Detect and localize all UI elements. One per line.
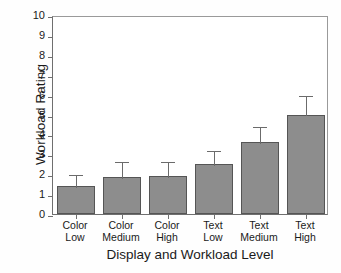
x-category-label: TextHigh xyxy=(265,219,341,243)
x-category-line: Text xyxy=(265,219,341,231)
y-tick-label: 8 xyxy=(39,50,45,61)
error-bar xyxy=(214,151,215,166)
bar xyxy=(149,176,187,214)
bar xyxy=(195,164,233,214)
bar xyxy=(57,186,95,214)
y-tick-6: 6 xyxy=(48,97,53,98)
y-tick-label: 5 xyxy=(39,110,45,121)
error-bar-cap xyxy=(207,151,221,152)
error-bar-cap xyxy=(299,96,313,97)
x-category-line: High xyxy=(265,231,341,243)
error-bar-cap xyxy=(69,175,83,176)
error-bar xyxy=(76,175,77,188)
bar xyxy=(241,142,279,214)
error-bar-cap xyxy=(253,127,267,128)
error-bar xyxy=(168,162,169,178)
y-tick-5: 5 xyxy=(48,117,53,118)
y-tick-2: 2 xyxy=(48,176,53,177)
error-bar-cap xyxy=(115,162,129,163)
error-bar xyxy=(122,162,123,179)
y-tick-3: 3 xyxy=(48,156,53,157)
x-axis-title: Display and Workload Level xyxy=(52,247,328,262)
y-tick-label: 1 xyxy=(39,189,45,200)
error-bar xyxy=(260,127,261,144)
y-tick-9: 9 xyxy=(48,37,53,38)
y-tick-4: 4 xyxy=(48,136,53,137)
y-tick-label: 2 xyxy=(39,169,45,180)
y-tick-label: 7 xyxy=(39,70,45,81)
error-bar-cap xyxy=(161,162,175,163)
bar xyxy=(103,177,141,214)
error-bar xyxy=(306,96,307,117)
y-tick-label: 9 xyxy=(39,30,45,41)
y-tick-label: 3 xyxy=(39,149,45,160)
plot-area: 012345678910 xyxy=(52,16,328,215)
y-tick-0: 0 xyxy=(48,216,53,217)
y-tick-7: 7 xyxy=(48,77,53,78)
y-tick-10: 10 xyxy=(48,17,53,18)
y-tick-label: 4 xyxy=(39,129,45,140)
bar xyxy=(287,115,325,215)
y-tick-label: 10 xyxy=(33,10,45,21)
y-tick-8: 8 xyxy=(48,57,53,58)
y-tick-label: 6 xyxy=(39,90,45,101)
y-tick-1: 1 xyxy=(48,196,53,197)
chart-figure: Workload Rating 012345678910 ColorLowCol… xyxy=(0,0,341,273)
